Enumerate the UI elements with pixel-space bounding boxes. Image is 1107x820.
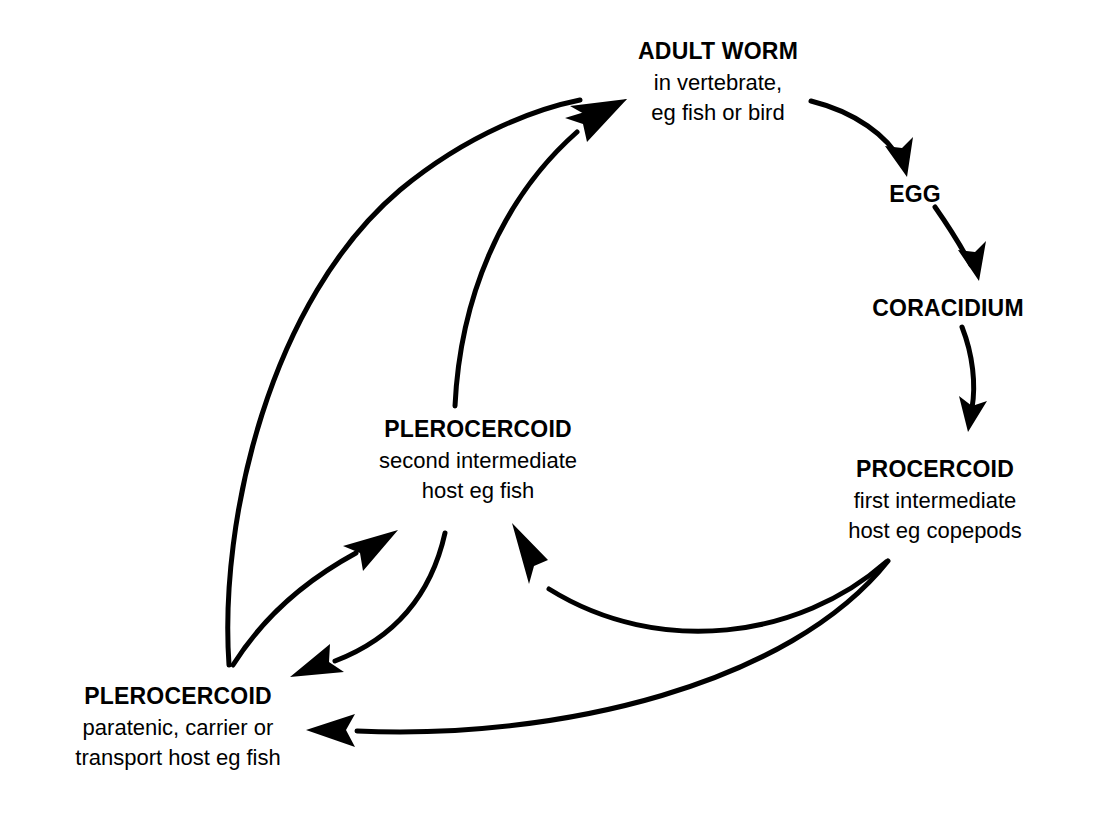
node-procercoid-title: PROCERCOID	[848, 458, 1022, 481]
node-plerocercoid-second: PLEROCERCOID second intermediate host eg…	[379, 418, 577, 502]
node-procercoid-sub1: first intermediate	[848, 490, 1022, 512]
arrow-coracidium-to-procercoid	[959, 327, 987, 432]
arrow-adult-to-egg	[811, 101, 913, 177]
node-adult-worm: ADULT WORM in vertebrate, eg fish or bir…	[638, 40, 798, 124]
node-plerocercoid-paratenic-sub2: transport host eg fish	[75, 747, 280, 769]
node-plerocercoid-second-sub2: host eg fish	[379, 480, 577, 502]
node-adult-worm-title: ADULT WORM	[638, 40, 798, 63]
node-egg: EGG	[889, 183, 941, 206]
node-procercoid: PROCERCOID first intermediate host eg co…	[848, 458, 1022, 542]
arrow-egg-to-coracidium	[935, 207, 986, 281]
arrow-procercoid-to-plerocercoid-paratenic	[306, 561, 888, 747]
node-coracidium-title: CORACIDIUM	[872, 297, 1024, 320]
life-cycle-diagram: ADULT WORM in vertebrate, eg fish or bir…	[0, 0, 1107, 820]
node-procercoid-sub2: host eg copepods	[848, 520, 1022, 542]
node-coracidium: CORACIDIUM	[872, 297, 1024, 320]
node-plerocercoid-second-title: PLEROCERCOID	[379, 418, 577, 441]
node-egg-title: EGG	[889, 183, 941, 206]
node-adult-worm-sub2: eg fish or bird	[638, 102, 798, 124]
node-plerocercoid-paratenic: PLEROCERCOID paratenic, carrier or trans…	[75, 685, 280, 769]
arrow-plerocercoid-paratenic-to-second	[233, 530, 398, 665]
node-plerocercoid-paratenic-sub1: paratenic, carrier or	[75, 717, 280, 739]
arrow-plerocercoid-second-to-adult	[455, 99, 627, 406]
node-plerocercoid-paratenic-title: PLEROCERCOID	[75, 685, 280, 708]
node-adult-worm-sub1: in vertebrate,	[638, 72, 798, 94]
node-plerocercoid-second-sub1: second intermediate	[379, 450, 577, 472]
